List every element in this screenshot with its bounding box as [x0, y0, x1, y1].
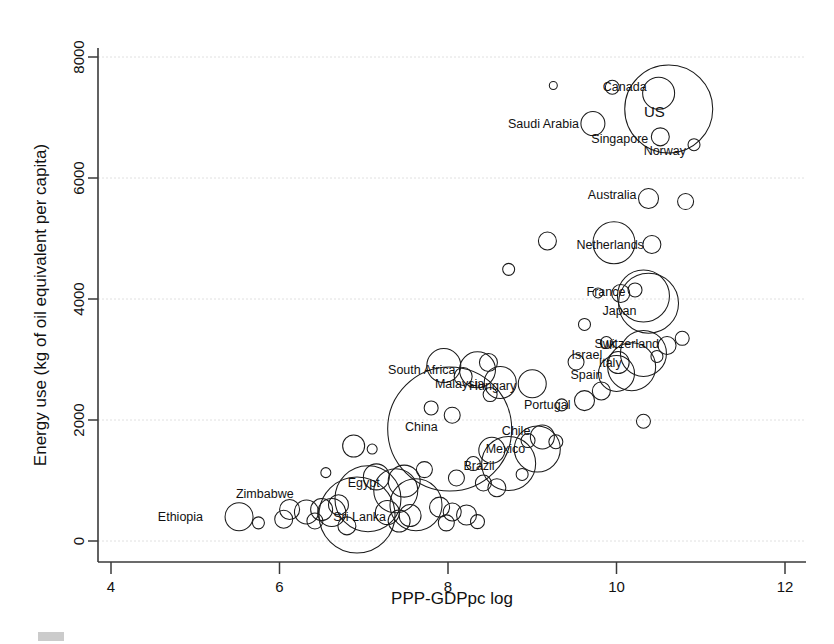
x-tick-label: 12: [777, 578, 794, 595]
data-bubble: [457, 505, 477, 525]
data-bubble-labeled: [518, 370, 546, 398]
data-bubble: [678, 194, 694, 210]
data-bubble-labeled: [639, 189, 659, 209]
data-bubble: [538, 232, 556, 250]
point-label: South Africa: [388, 363, 455, 377]
point-label: Mexico: [486, 442, 526, 456]
data-bubble: [390, 479, 442, 531]
point-label: US: [644, 103, 665, 120]
point-label: Hungary: [469, 379, 517, 393]
point-label: Canada: [603, 80, 647, 94]
y-tick-label: 0: [70, 537, 87, 545]
y-tick-label: 8000: [70, 40, 87, 73]
data-bubble-labeled: [643, 236, 661, 254]
data-bubble: [549, 81, 557, 89]
page-artifact: [38, 632, 64, 641]
data-bubble-labeled: [574, 391, 594, 411]
point-label: Portugal: [524, 398, 571, 412]
data-bubble-labeled: [658, 337, 676, 355]
x-axis-title: PPP-GDPpc log: [391, 589, 513, 608]
y-tick-label: 2000: [70, 403, 87, 436]
chart-svg: 020004000600080004681012 EthiopiaZimbabw…: [0, 0, 834, 644]
data-bubble: [438, 515, 454, 531]
data-bubble: [479, 354, 497, 372]
point-label: Ethiopia: [158, 510, 203, 524]
point-label: Chile: [502, 424, 531, 438]
point-label: Japan: [602, 304, 636, 318]
data-bubble-labeled: [374, 469, 418, 513]
data-bubble: [470, 515, 484, 529]
x-tick-label: 4: [107, 578, 115, 595]
data-bubble: [503, 263, 515, 275]
data-bubble: [444, 407, 460, 423]
bubble-chart-figure: 020004000600080004681012 EthiopiaZimbabw…: [0, 0, 834, 644]
point-label: France: [587, 285, 626, 299]
data-bubble: [367, 444, 377, 454]
point-label: Norway: [644, 144, 687, 158]
y-tick-label: 4000: [70, 282, 87, 315]
point-label: Egypt: [348, 476, 380, 490]
point-label: Saudi Arabia: [508, 117, 579, 131]
data-bubble: [343, 435, 365, 457]
data-bubble: [592, 382, 610, 400]
data-bubble: [443, 503, 461, 521]
data-bubble: [321, 468, 331, 478]
point-label: Singapore: [591, 132, 648, 146]
y-axis-title: Energy use (kg of oil equivalent per cap…: [31, 144, 50, 466]
point-label: Brazil: [463, 459, 494, 473]
data-bubble: [549, 435, 563, 449]
point-label: Sri Lanka: [333, 510, 386, 524]
data-bubble: [252, 517, 264, 529]
point-label: Spain: [571, 368, 603, 382]
data-bubble-labeled: [225, 503, 253, 531]
gridlines-group: [98, 57, 806, 541]
x-tick-label: 6: [275, 578, 283, 595]
point-label: Switzerland: [594, 337, 659, 351]
point-label: China: [405, 420, 438, 434]
data-bubble: [516, 468, 528, 480]
point-label: Zimbabwe: [236, 487, 294, 501]
x-tick-label: 10: [608, 578, 625, 595]
point-labels-group: EthiopiaZimbabweSri LankaEgyptChinaBrazi…: [158, 80, 687, 524]
data-bubble: [280, 500, 300, 520]
point-label: Italy: [599, 356, 623, 370]
data-bubble: [675, 331, 689, 345]
data-bubble: [448, 470, 464, 486]
point-label: Australia: [588, 188, 637, 202]
y-tick-label: 6000: [70, 161, 87, 194]
data-bubble: [430, 497, 450, 517]
data-bubble-labeled: [619, 273, 679, 333]
data-bubble: [424, 401, 438, 415]
data-bubble: [578, 318, 590, 330]
data-bubble: [636, 414, 650, 428]
point-label: Netherlands: [576, 238, 643, 252]
